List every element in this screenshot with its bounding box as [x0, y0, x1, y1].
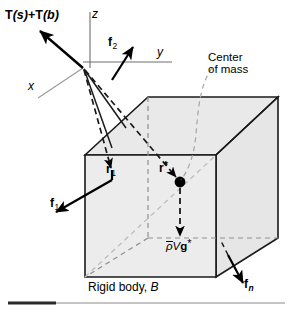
traction-vector-label: T(s)+T(b): [5, 9, 59, 22]
mean-density-symbol: ρ: [166, 240, 173, 252]
axis-label-x: x: [28, 80, 34, 93]
traction-body-arg: (b): [43, 8, 59, 22]
axis-x-line: [38, 68, 83, 98]
traction-T-body: T: [35, 8, 43, 22]
gravity-superscript: *: [187, 237, 191, 249]
traction-surface-arg: (s): [13, 8, 28, 22]
axis-label-y: y: [157, 46, 163, 59]
traction-T-surface: T: [5, 8, 13, 22]
f2-subscript: 2: [113, 41, 118, 51]
figure-root: T(s)+T(b) z y x f2 f1 fn r1 r* Center of…: [0, 0, 290, 314]
center-of-mass-line-2: of mass: [208, 63, 248, 75]
caption-body-symbol: B: [150, 280, 158, 294]
axis-label-z: z: [92, 8, 98, 21]
rigid-body-diagram-canvas: [0, 0, 290, 314]
figure-caption: Rigid body, B: [88, 281, 159, 294]
f1-label: f1: [50, 197, 59, 210]
f1-subscript: 1: [55, 202, 60, 212]
r-star-superscript: *: [164, 159, 168, 171]
center-of-mass-label: Center of mass: [208, 51, 248, 75]
center-of-mass-line-1: Center: [208, 51, 243, 63]
r-star-label: r*: [159, 162, 168, 175]
f2-application-line: [84, 69, 126, 128]
gravity-force-label: ρVg*: [166, 240, 192, 253]
f2-symbol: f: [108, 35, 112, 49]
traction-vector-arrow: [40, 31, 83, 68]
fn-label: fn: [244, 278, 253, 291]
caption-prefix: Rigid body,: [88, 280, 150, 294]
r-star-symbol: r: [159, 161, 164, 175]
f2-application-line-lower: [84, 69, 112, 148]
cube-front-face: [85, 155, 216, 277]
f2-label: f2: [108, 36, 117, 49]
fn-symbol: f: [244, 277, 248, 291]
center-of-mass-dot: [175, 177, 186, 188]
f2-vector-arrow: [112, 47, 133, 80]
r1-symbol: r: [106, 162, 111, 176]
fn-subscript: n: [249, 283, 254, 293]
r1-label: r1: [106, 163, 115, 176]
f1-symbol: f: [50, 196, 54, 210]
r1-subscript: 1: [111, 168, 116, 178]
